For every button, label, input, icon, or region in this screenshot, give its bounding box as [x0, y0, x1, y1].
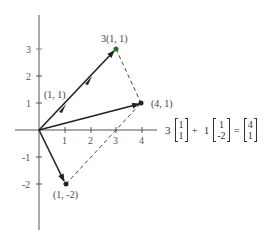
x-tick-4: 4	[139, 135, 144, 146]
label-sum-vector: (4, 1)	[151, 98, 173, 110]
point-4-1	[139, 101, 144, 106]
linear-combination-equation: 3 1 1 + 1 1 -2 = 4 1	[163, 118, 257, 142]
label-second-vector: (1, -2)	[53, 189, 78, 201]
result-vector-column: 4 1	[244, 118, 257, 142]
matrix-entry: 1	[179, 130, 184, 141]
matrix-entry: 1	[179, 119, 184, 130]
y-tick-3: 3	[26, 44, 31, 55]
coefficient-1: 3	[163, 124, 173, 136]
y-tick-neg1: -1	[22, 152, 30, 163]
dashed-side-top	[116, 49, 141, 103]
vector-1-1-column: 1 1	[175, 118, 188, 142]
y-tick-1: 1	[26, 98, 31, 109]
x-tick-1: 1	[62, 135, 67, 146]
point-3-3	[114, 47, 119, 52]
coefficient-2: 1	[202, 124, 212, 136]
matrix-entry: 1	[248, 130, 253, 141]
matrix-entry: 1	[219, 119, 224, 130]
label-scaled-vector: 3(1, 1)	[101, 33, 128, 45]
plus-sign: +	[190, 124, 200, 136]
x-tick-3: 3	[113, 135, 118, 146]
y-tick-neg2: -2	[22, 179, 30, 190]
vector-4-1	[39, 104, 139, 130]
matrix-entry: 4	[248, 119, 253, 130]
equals-sign: =	[232, 124, 242, 136]
dashed-side-bottom	[66, 103, 141, 184]
point-1-neg2	[64, 182, 69, 187]
vector-1-neg2	[39, 130, 64, 181]
label-unit-vector: (1, 1)	[44, 89, 66, 101]
matrix-entry: -2	[217, 130, 225, 141]
vector-1-neg2-column: 1 -2	[213, 118, 229, 142]
x-tick-2: 2	[88, 135, 93, 146]
y-tick-2: 2	[26, 71, 31, 82]
